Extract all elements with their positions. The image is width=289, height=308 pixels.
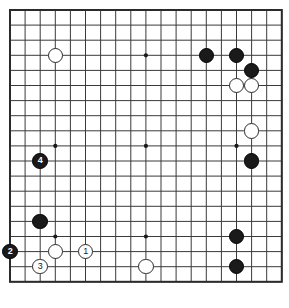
black-stone[interactable]: 4 — [32, 153, 48, 169]
white-stone[interactable] — [244, 123, 260, 139]
stone-move-number: 4 — [38, 156, 43, 165]
go-diagram-root: 4213 — [0, 0, 289, 308]
stone-move-number: 3 — [38, 262, 43, 271]
star-point — [234, 144, 238, 148]
go-board-area[interactable]: 4213 — [0, 0, 289, 308]
stone-move-number: 2 — [8, 247, 13, 256]
black-stone[interactable] — [244, 153, 260, 169]
white-stone[interactable] — [138, 259, 154, 275]
star-point — [144, 234, 148, 238]
black-stone[interactable] — [199, 48, 215, 64]
white-stone[interactable] — [48, 48, 64, 64]
star-point — [53, 234, 57, 238]
star-point — [53, 144, 57, 148]
black-stone[interactable] — [32, 214, 48, 230]
star-point — [144, 53, 148, 57]
stone-move-number: 1 — [83, 247, 88, 256]
black-stone[interactable]: 2 — [2, 244, 18, 260]
star-point — [144, 144, 148, 148]
